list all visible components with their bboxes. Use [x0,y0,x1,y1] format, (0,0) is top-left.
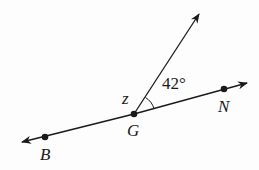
angle-arc [146,98,155,109]
point-label-b: B [40,146,50,163]
angle-measure-label: 42° [162,75,186,92]
geometry-diagram: 42° z G N B [0,0,259,170]
point-b [42,134,49,141]
point-label-n: N [218,98,229,115]
point-n [221,86,228,93]
point-label-g: G [127,122,139,139]
point-g [131,111,138,118]
diagram-svg [0,0,259,170]
angle-variable-label: z [122,90,129,107]
line-bn-left [22,114,134,142]
